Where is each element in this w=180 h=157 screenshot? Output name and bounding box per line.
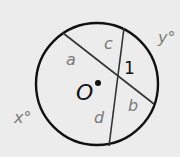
angle-1-label: 1 [124, 60, 135, 77]
segment-c-label: c [104, 36, 113, 52]
center-point [95, 80, 101, 86]
center-o-label: O [76, 82, 93, 104]
segment-b-label: b [128, 98, 138, 114]
segment-a-label: a [66, 52, 76, 68]
arc-y-label: y° [158, 30, 175, 46]
arc-x-label: x° [14, 110, 31, 126]
circle-chords-diagram: a c 1 O b d x° y° [0, 0, 180, 157]
diagram-figure [0, 0, 180, 157]
segment-d-label: d [94, 110, 104, 126]
